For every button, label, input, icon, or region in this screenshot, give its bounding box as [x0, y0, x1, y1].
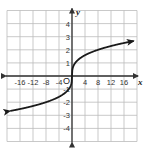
y-tick-label: 1 — [66, 59, 70, 68]
x-tick-label: -4 — [56, 78, 63, 87]
y-tick-label: 4 — [66, 20, 70, 29]
y-tick-label: 2 — [66, 46, 70, 55]
x-tick-label: -12 — [28, 78, 39, 87]
x-tick-label: 12 — [107, 78, 115, 87]
cube-root-graph: -16-12-8-44812164321-1-2-3-4 xyO — [0, 0, 143, 150]
axis-labels: xyO — [63, 7, 143, 88]
x-tick-label: -8 — [43, 78, 50, 87]
x-tick-label: 8 — [96, 78, 100, 87]
y-tick-label: -4 — [63, 124, 70, 133]
x-axis-label: x — [137, 77, 143, 87]
x-tick-label: -16 — [15, 78, 26, 87]
x-tick-label: 16 — [120, 78, 128, 87]
x-tick-label: 4 — [83, 78, 87, 87]
origin-label: O — [63, 76, 70, 86]
y-axis-label: y — [75, 7, 81, 17]
y-tick-label: 3 — [66, 33, 70, 42]
y-tick-label: -2 — [63, 98, 70, 107]
y-tick-label: -3 — [63, 111, 70, 120]
